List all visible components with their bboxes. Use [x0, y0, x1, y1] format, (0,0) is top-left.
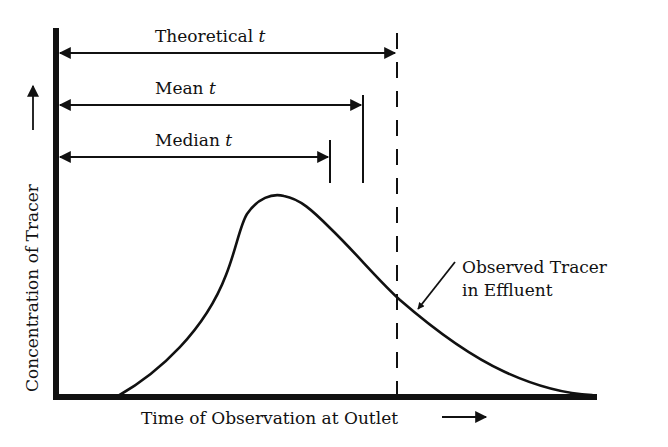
median-t-label: Median t — [155, 130, 232, 150]
tracer-diagram: Theoretical t Mean t Median t Observed T… — [0, 0, 668, 447]
annotation-line-2: in Effluent — [462, 280, 553, 300]
mean-t-label: Mean t — [155, 78, 216, 98]
annotation-line-1: Observed Tracer — [462, 257, 608, 277]
x-axis-label: Time of Observation at Outlet — [141, 408, 398, 428]
annotation-leader-arrow — [418, 262, 455, 309]
y-axis-label-group: Concentration of Tracer — [22, 183, 42, 392]
diagram-canvas: Theoretical t Mean t Median t Observed T… — [0, 0, 668, 447]
theoretical-t-label: Theoretical t — [155, 26, 266, 46]
y-axis-label: Concentration of Tracer — [22, 183, 42, 392]
